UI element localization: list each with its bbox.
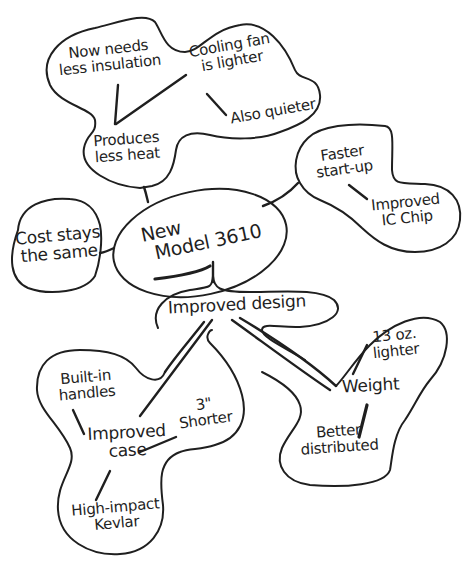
mind-map-outlines (0, 0, 470, 573)
link-fan-quieter (207, 94, 226, 115)
node-cost-same: Cost stays the same (15, 223, 103, 266)
node-improved-case: Improved case (87, 422, 167, 462)
link-cost-central (100, 248, 114, 253)
link-startup-central (263, 183, 298, 206)
node-better-distributed: Better distributed (299, 421, 379, 458)
node-lighter: 13 oz. lighter (370, 326, 420, 362)
link-case-kevlar (96, 471, 110, 500)
link-design-case-b (165, 322, 204, 372)
node-produces-less-heat: Produces less heat (93, 130, 161, 166)
link-design-weight-a (232, 320, 330, 390)
node-weight: Weight (342, 376, 400, 397)
link-heat-central (144, 187, 148, 202)
node-weight-line1: Weight (342, 376, 400, 397)
link-handles-case (73, 410, 84, 434)
link-insulation-heat (115, 85, 118, 124)
link-design-weight-b (240, 318, 336, 386)
mind-map-canvas: Now needs less insulation Cooling fan is… (0, 0, 470, 573)
link-fan-heat (116, 75, 186, 124)
node-built-in-handles: Built-in handles (57, 368, 116, 404)
link-startup-chip (349, 185, 367, 199)
central-underline (155, 266, 210, 279)
link-weight-lighter (353, 345, 367, 374)
startup-cluster-outline (296, 125, 461, 253)
